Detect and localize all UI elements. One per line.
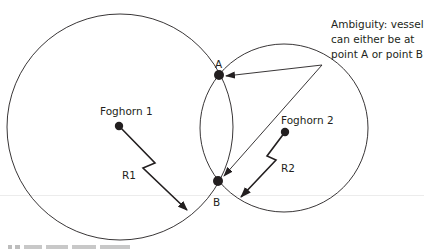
point-a-label: A: [215, 58, 223, 70]
ambiguity-annotation: Ambiguity: vessel can either be at point…: [224, 18, 424, 176]
point-a-dot: [214, 70, 224, 80]
foghorn-2: Foghorn 2: [281, 114, 334, 136]
foghorn-1-label: Foghorn 1: [100, 105, 153, 117]
foghorn-1: Foghorn 1: [100, 105, 153, 130]
radius-label-r2: R2: [281, 162, 295, 174]
intersection-point-a: A: [214, 58, 224, 80]
annotation-line-1: Ambiguity: vessel: [331, 18, 424, 30]
radius-arrow-r2: R2: [241, 132, 295, 197]
foghorn-2-label: Foghorn 2: [281, 114, 334, 126]
intersection-point-b: B: [213, 176, 223, 208]
point-b-label: B: [213, 196, 220, 208]
point-b-dot: [213, 176, 223, 186]
annotation-arrow-to-a: [226, 65, 322, 76]
cropped-caption-fragment: [8, 245, 130, 249]
radius-arrow-r1: R1: [119, 126, 187, 210]
annotation-line-2: can either be at: [331, 33, 414, 45]
radius-label-r1: R1: [122, 169, 136, 181]
foghorn-ambiguity-diagram: Foghorn 1 R1 Foghorn 2 R2 A B Ambiguity:…: [0, 0, 424, 251]
annotation-line-3: point A or point B: [331, 48, 423, 60]
